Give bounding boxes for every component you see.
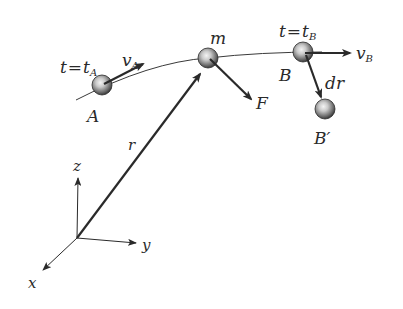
displacement-label: dr [325, 73, 345, 93]
x-axis-label: x [28, 274, 37, 292]
particle-b-prime-ball [315, 99, 335, 119]
force-label: F [255, 93, 269, 113]
position-vector-r-label: r [128, 136, 136, 154]
point-b-label: B [278, 65, 292, 85]
mass-label: m [210, 28, 226, 48]
velocity-b-label: vB [356, 43, 373, 64]
position-vector-r-arrow [77, 74, 200, 238]
point-a-label: A [85, 106, 99, 126]
time-a-label: t=tA [60, 57, 97, 78]
force-arrow [210, 59, 251, 99]
z-axis-label: z [72, 157, 81, 175]
point-b-prime-label: B′ [313, 128, 330, 148]
time-b-label: t=tB [279, 21, 316, 42]
z-axis-arrow [77, 178, 78, 238]
displacement-dr-arrow [306, 55, 321, 97]
x-axis-arrow [43, 238, 77, 270]
velocity-a-label: vA [122, 50, 139, 71]
particle-trajectory-diagram: t=tA vA A m F t=tB vB B dr B′ r z y x [0, 0, 403, 309]
y-axis-arrow [77, 238, 136, 243]
coordinate-axes [43, 178, 136, 270]
y-axis-label: y [141, 236, 151, 254]
particle-a-ball [92, 75, 112, 95]
